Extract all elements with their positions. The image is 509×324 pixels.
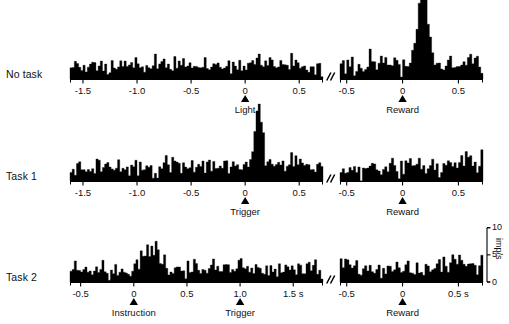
event-label-task-2-instruction: Trigger <box>225 307 255 318</box>
row-label-task-1: Task 1 <box>6 170 37 182</box>
event-marker-no-task-reward <box>398 95 406 102</box>
scale-bar-tick-label: 0 <box>492 277 497 287</box>
histogram-bars-task-2-reward <box>340 255 483 282</box>
event-marker-task-2-reward <box>398 298 406 305</box>
tick-label-task-2-instruction: 1.0 <box>233 288 246 299</box>
tick-label-task-2-reward: -0.5 <box>339 288 355 299</box>
tick-label-no-task-light: -0.5 <box>183 85 199 96</box>
scale-bar-units-label: imp/s <box>494 238 504 260</box>
tick-label-no-task-light: 0.5 <box>293 85 306 96</box>
tick-label-task-2-instruction: -0.5 <box>72 288 88 299</box>
event-label-task-1-reward: Reward <box>386 206 419 217</box>
tick-label-task-2-reward: 0.5 s <box>448 288 469 299</box>
histogram-bars-task-2-instruction <box>70 241 323 282</box>
histogram-canvas <box>0 0 509 324</box>
row-label-no-task: No task <box>6 68 42 80</box>
event-marker-task-2-instruction <box>130 298 138 305</box>
axis-break-stroke <box>331 175 335 183</box>
event-marker-task-1-reward <box>398 197 406 204</box>
tick-label-task-1-trigger: -1.0 <box>129 187 145 198</box>
tick-label-no-task-reward: 0.5 <box>452 85 465 96</box>
tick-label-no-task-light: 0 <box>242 85 247 96</box>
tick-label-task-2-instruction: 0.5 <box>180 288 193 299</box>
tick-label-task-1-reward: -0.5 <box>339 187 355 198</box>
tick-label-task-1-trigger: 0.5 <box>293 187 306 198</box>
axis-break-stroke <box>327 73 331 81</box>
axis-break-stroke <box>327 276 331 284</box>
tick-label-task-1-trigger: -0.5 <box>183 187 199 198</box>
event-marker-task-2-instruction <box>236 298 244 305</box>
tick-label-task-1-trigger: 0 <box>242 187 247 198</box>
event-label-task-2-reward: Reward <box>386 307 419 318</box>
tick-label-no-task-light: -1.5 <box>75 85 91 96</box>
histogram-bars-task-1-trigger <box>70 104 323 181</box>
tick-label-no-task-light: -1.0 <box>129 85 145 96</box>
event-marker-no-task-light <box>241 95 249 102</box>
event-marker-task-1-trigger <box>241 197 249 204</box>
event-label-no-task-reward: Reward <box>386 104 419 115</box>
axis-break-no-task <box>327 73 335 81</box>
axis-break-stroke <box>331 73 335 81</box>
row-label-task-2: Task 2 <box>6 271 37 283</box>
axis-break-task-1 <box>327 175 335 183</box>
tick-label-task-1-reward: 0 <box>400 187 405 198</box>
scale-bar-tick-label: 10 <box>492 222 502 232</box>
tick-label-task-2-reward: 0 <box>400 288 405 299</box>
axis-break-stroke <box>327 175 331 183</box>
histogram-bars-no-task-light <box>70 53 323 79</box>
scale-bar-rate-scale <box>487 228 491 282</box>
tick-label-task-2-instruction: 1.5 s <box>283 288 304 299</box>
event-label-task-2-instruction: Instruction <box>112 307 156 318</box>
tick-label-task-1-trigger: -1.5 <box>75 187 91 198</box>
tick-label-no-task-reward: 0 <box>400 85 405 96</box>
tick-label-task-1-reward: 0.5 <box>452 187 465 198</box>
tick-label-no-task-reward: -0.5 <box>339 85 355 96</box>
histogram-bars-no-task-reward <box>340 0 483 79</box>
tick-label-task-2-instruction: 0 <box>131 288 136 299</box>
histogram-bars-task-1-reward <box>340 150 483 181</box>
axis-break-task-2 <box>327 276 335 284</box>
event-label-no-task-light: Light <box>235 104 256 115</box>
event-label-task-1-trigger: Trigger <box>230 206 260 217</box>
histogram-figure: No task-1.5-1.0-0.500.5Light-0.500.5Rewa… <box>0 0 509 324</box>
axis-break-stroke <box>331 276 335 284</box>
